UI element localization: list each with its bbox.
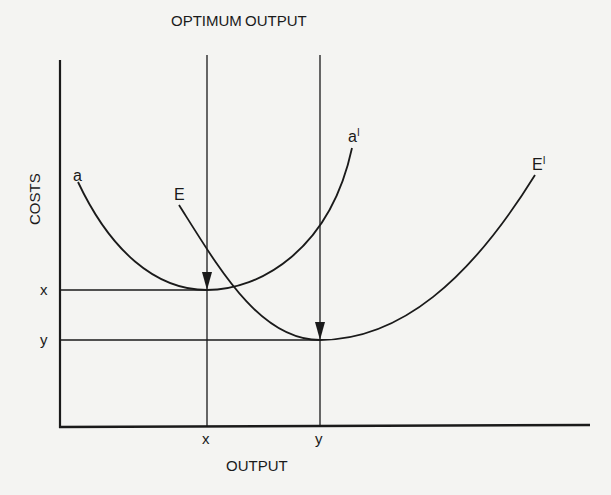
cost-curve-diagram: OPTIMUM OUTPUT COSTS a aI E EI x y x y O… (0, 0, 611, 495)
output-label-top: OUTPUT (245, 12, 307, 29)
costs-axis-label: COSTS (26, 173, 43, 225)
cost-tick-y: y (40, 331, 48, 348)
arrow-down-icon (202, 272, 212, 290)
curve-e (179, 175, 535, 340)
figure-canvas: OPTIMUM OUTPUT COSTS a aI E EI x y x y O… (0, 0, 611, 495)
optimum-label: OPTIMUM (171, 12, 242, 29)
curve-a (78, 148, 352, 290)
cost-tick-x: x (40, 281, 48, 298)
curve-e-start-label: E (174, 186, 185, 203)
output-tick-y: y (315, 430, 323, 447)
curve-a-end-label: aI (348, 127, 360, 145)
output-tick-x: x (202, 430, 210, 447)
curve-e-end-label: EI (532, 155, 545, 173)
curve-a-start-label: a (73, 167, 82, 184)
arrow-down-icon (315, 322, 325, 340)
output-axis-label: OUTPUT (226, 457, 288, 474)
x-axis (59, 425, 590, 427)
